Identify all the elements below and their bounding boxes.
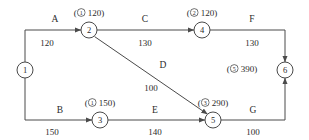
activity-label-a: A [52,15,59,25]
circled-number-icon: 5 [230,64,239,73]
circled-number-icon: 1 [77,8,86,17]
circled-number-value: 1 [80,10,83,16]
circled-number-icon: 2 [190,8,199,17]
activity-duration-a: 120 [40,39,54,48]
activity-label-g: G [250,106,257,116]
circled-number-value: 1 [91,100,94,106]
circled-number-value: 2 [193,10,196,16]
circled-number-icon: 1 [88,98,97,107]
annotation-close-paren: ) [214,8,217,18]
node-annotation-6: ( 5 390) [227,64,258,74]
node-label-2: 2 [87,26,91,35]
node-label-5: 5 [211,116,215,125]
annotation-value-4: 120 [201,8,215,18]
node-label-4: 4 [200,26,204,35]
activity-duration-b: 150 [45,128,59,137]
circled-number-icon: 3 [201,98,210,107]
activity-duration-g: 100 [246,128,260,137]
node-label-3: 3 [98,116,102,125]
node-annotation-2: ( 1 120) [74,8,105,18]
node-annotation-3: ( 1 150) [85,98,116,108]
activity-label-b: B [57,106,63,116]
annotation-close-paren: ) [225,98,228,108]
activity-label-f: F [249,15,254,25]
annotation-value-6: 390 [241,64,255,74]
annotation-value-5: 290 [212,98,226,108]
circled-number-value: 5 [233,66,236,72]
circled-number-value: 3 [204,100,207,106]
activity-label-d: D [160,61,167,71]
activity-label-c: C [142,15,148,25]
node-label-1: 1 [23,66,27,75]
activity-duration-f: 130 [245,39,259,48]
node-label-6: 6 [283,66,287,75]
network-edges-layer [0,0,309,140]
activity-duration-d: 100 [144,84,158,93]
network-diagram: 1 2 3 4 5 6 A C F B E G D 120 130 130 15… [0,0,309,140]
activity-duration-e: 140 [148,128,162,137]
node-annotation-4: ( 2 120) [187,8,218,18]
annotation-close-paren: ) [112,98,115,108]
node-annotation-5: ( 3 290) [198,98,229,108]
annotation-value-2: 120 [88,8,102,18]
activity-label-e: E [152,106,158,116]
activity-duration-c: 130 [138,39,152,48]
annotation-close-paren: ) [254,64,257,74]
annotation-value-3: 150 [99,98,113,108]
annotation-close-paren: ) [101,8,104,18]
